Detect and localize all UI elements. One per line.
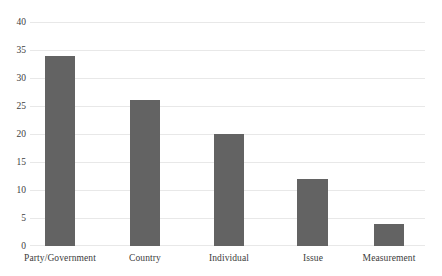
x-axis-label-issue: Issue bbox=[303, 252, 323, 264]
x-axis-label-measurement: Measurement bbox=[363, 252, 416, 264]
x-axis: Party/Government Country Individual Issu… bbox=[0, 252, 442, 268]
bar-country[interactable] bbox=[130, 100, 160, 246]
y-axis-tick-label: 30 bbox=[0, 73, 26, 83]
bar-chart: 0 5 10 15 20 25 30 35 40 Party/Governmen… bbox=[0, 0, 442, 276]
x-axis-label-individual: Individual bbox=[209, 252, 249, 264]
y-axis-tick-label: 10 bbox=[0, 185, 26, 195]
gridline-30 bbox=[30, 78, 425, 79]
bar-measurement[interactable] bbox=[374, 224, 404, 246]
y-axis-tick-label: 25 bbox=[0, 101, 26, 111]
y-axis-tick-label: 5 bbox=[0, 213, 26, 223]
bar-issue[interactable] bbox=[297, 179, 328, 246]
plot-area bbox=[30, 22, 425, 246]
bar-party-government[interactable] bbox=[45, 56, 75, 246]
x-axis-label-party-government: Party/Government bbox=[24, 252, 96, 264]
y-axis-tick-label: 15 bbox=[0, 157, 26, 167]
y-axis-tick-label: 0 bbox=[0, 241, 26, 251]
y-axis-tick-label: 35 bbox=[0, 45, 26, 55]
y-axis-tick-label: 20 bbox=[0, 129, 26, 139]
gridline-40 bbox=[30, 22, 425, 23]
y-axis-tick-label: 40 bbox=[0, 17, 26, 27]
gridline-35 bbox=[30, 50, 425, 51]
gridline-25 bbox=[30, 106, 425, 107]
x-axis-label-country: Country bbox=[129, 252, 161, 264]
bar-individual[interactable] bbox=[214, 134, 244, 246]
